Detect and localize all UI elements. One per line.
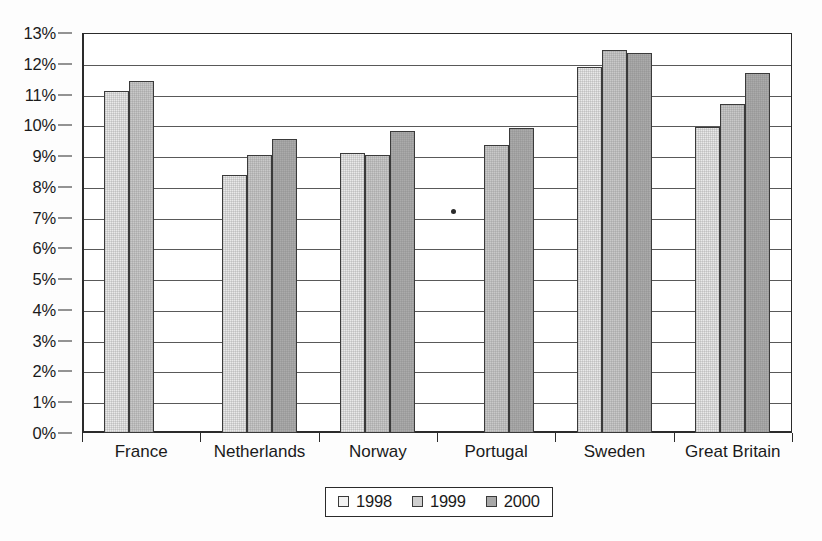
x-axis-label-sweden: Sweden <box>584 442 645 462</box>
gridline <box>84 342 791 343</box>
y-axis-tick-mark <box>58 309 72 310</box>
gridline <box>84 126 791 127</box>
y-axis-tick-mark <box>58 279 72 280</box>
y-axis-tick-label: 12% <box>24 54 56 73</box>
x-axis-labels: FranceNetherlandsNorwayPortugalSwedenGre… <box>82 442 792 472</box>
x-axis-label-france: France <box>115 442 168 462</box>
y-axis-tick-label: 2% <box>33 362 56 381</box>
legend-label: 1999 <box>430 492 466 511</box>
y-axis-tick-mark <box>58 340 72 341</box>
y-axis-tick-label: 5% <box>33 270 56 289</box>
y-axis-tick-mark <box>58 217 72 218</box>
plot-area <box>82 33 792 433</box>
x-axis-tick-mark <box>319 433 320 442</box>
x-axis-tick-mark <box>437 433 438 442</box>
y-axis-tick-label: 8% <box>33 177 56 196</box>
y-axis-tick-mark <box>58 63 72 64</box>
y-axis-tick-label: 9% <box>33 147 56 166</box>
y-axis-tick-label: 4% <box>33 300 56 319</box>
gridline <box>84 219 791 220</box>
y-axis-tick-mark <box>58 402 72 403</box>
y-axis-tick-label: 0% <box>33 424 56 443</box>
y-axis-tick-mark <box>58 248 72 249</box>
legend-swatch-2000 <box>486 496 497 507</box>
bar-chart-figure: 0%1%2%3%4%5%6%7%8%9%10%11%12%13% FranceN… <box>0 0 822 541</box>
x-axis-tick-mark <box>555 433 556 442</box>
gridline <box>84 188 791 189</box>
x-axis-label-norway: Norway <box>349 442 407 462</box>
x-axis-label-great-britain: Great Britain <box>685 442 780 462</box>
legend-swatch-1998 <box>338 496 349 507</box>
y-axis-tick-label: 6% <box>33 239 56 258</box>
y-axis-tick-mark <box>58 186 72 187</box>
y-axis-tick-label: 7% <box>33 208 56 227</box>
y-axis-tick-label: 10% <box>24 116 56 135</box>
x-axis-tick-mark <box>200 433 201 442</box>
x-axis-tick-mark <box>792 433 793 442</box>
gridline <box>84 311 791 312</box>
legend-label: 1998 <box>356 492 392 511</box>
x-axis-label-portugal: Portugal <box>464 442 527 462</box>
y-axis-tick-mark <box>58 433 72 434</box>
gridline <box>84 403 791 404</box>
y-axis: 0%1%2%3%4%5%6%7%8%9%10%11%12%13% <box>0 0 82 460</box>
y-axis-tick-mark <box>58 371 72 372</box>
gridline <box>84 249 791 250</box>
legend-label: 2000 <box>504 492 540 511</box>
gridline <box>84 372 791 373</box>
legend-entry-1999[interactable]: 1999 <box>412 492 466 511</box>
y-axis-tick-mark <box>58 33 72 34</box>
legend-entry-1998[interactable]: 1998 <box>338 492 392 511</box>
y-axis-tick-label: 13% <box>24 24 56 43</box>
gridline <box>84 280 791 281</box>
gridline <box>84 65 791 66</box>
x-axis-tick-mark <box>674 433 675 442</box>
gridline <box>84 157 791 158</box>
y-axis-tick-label: 1% <box>33 393 56 412</box>
x-axis-label-netherlands: Netherlands <box>214 442 306 462</box>
y-axis-tick-mark <box>58 156 72 157</box>
y-axis-tick-label: 3% <box>33 331 56 350</box>
y-axis-tick-label: 11% <box>25 85 56 104</box>
chart-legend: 199819992000 <box>325 487 553 517</box>
gridline <box>84 96 791 97</box>
x-axis-tick-mark <box>82 433 83 442</box>
y-axis-tick-mark <box>58 94 72 95</box>
y-axis-tick-mark <box>58 125 72 126</box>
legend-entry-2000[interactable]: 2000 <box>486 492 540 511</box>
legend-swatch-1999 <box>412 496 423 507</box>
